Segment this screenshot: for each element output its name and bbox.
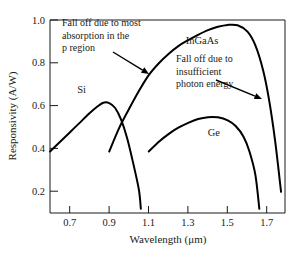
curve-si: [50, 102, 141, 208]
y-tick-label-0: 0.2: [32, 186, 45, 197]
y-axis-title: Responsivity (A/W): [6, 71, 19, 160]
x-axis-title: Wavelength (μm): [130, 233, 207, 246]
chart-svg: 1.0 0.8 0.6 0.4 0.2 0.7 0.9 1.1 1.3 1.5 …: [0, 0, 301, 260]
y-tick-label-2: 0.6: [32, 100, 45, 111]
x-tick-label-0: 0.7: [63, 217, 76, 228]
x-axis-ticks: [70, 206, 267, 213]
x-tick-label-2: 1.1: [142, 217, 155, 228]
series-label-ingaas: InGaAs: [186, 35, 219, 46]
annotation-0-line-0: Fall off due to most: [62, 17, 141, 28]
annotation-0-arrow-line: [113, 52, 143, 70]
responsivity-chart-figure: 1.0 0.8 0.6 0.4 0.2 0.7 0.9 1.1 1.3 1.5 …: [0, 0, 301, 260]
y-axis-tick-labels: 1.0 0.8 0.6 0.4 0.2: [32, 15, 46, 197]
y-tick-label-4: 1.0: [32, 15, 45, 26]
curve-ge: [149, 117, 260, 209]
annotation-0-line-1: absorption in the: [62, 30, 130, 41]
annotation-1-line-1: insufficient: [176, 66, 222, 77]
annotation-1-line-0: Fall off due to: [176, 53, 233, 64]
x-tick-label-5: 1.7: [260, 217, 273, 228]
y-tick-label-1: 0.4: [32, 143, 46, 154]
x-tick-label-3: 1.3: [181, 217, 194, 228]
series-label-ge: Ge: [208, 127, 221, 138]
annotation-falloff-p-region: Fall off due to most absorption in the p…: [62, 17, 149, 74]
annotation-falloff-photon-energy: Fall off due to insufficient photon ener…: [176, 53, 262, 99]
y-tick-label-3: 0.8: [32, 57, 45, 68]
y-axis-ticks: [50, 20, 58, 191]
annotation-0-line-2: p region: [62, 42, 95, 53]
x-tick-label-4: 1.5: [221, 217, 234, 228]
annotation-0-arrow-head: [141, 67, 149, 74]
x-tick-label-1: 0.9: [103, 217, 116, 228]
x-axis-tick-labels: 0.7 0.9 1.1 1.3 1.5 1.7: [63, 217, 273, 228]
annotation-1-arrow-head: [254, 93, 262, 99]
series-label-si: Si: [77, 84, 86, 95]
